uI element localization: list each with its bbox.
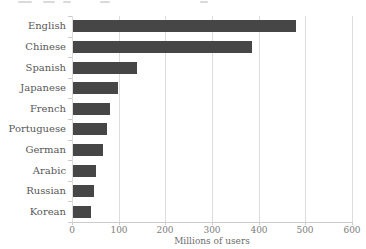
gridline [305, 16, 306, 222]
bar-french [73, 103, 110, 115]
cropped-title-fragment [63, 1, 71, 3]
bar-japanese [73, 82, 118, 94]
category-label-german: German [0, 144, 66, 156]
gridline [352, 16, 353, 222]
category-label-russian: Russian [0, 185, 66, 197]
cropped-title-fragment [18, 1, 32, 3]
category-label-arabic: Arabic [0, 165, 66, 177]
bar-arabic [73, 165, 96, 177]
x-tick-label: 500 [296, 225, 313, 235]
category-label-portuguese: Portuguese [0, 123, 66, 135]
x-axis-title: Millions of users [174, 236, 250, 246]
y-tick-mark [68, 78, 72, 79]
category-label-korean: Korean [0, 206, 66, 218]
bar-korean [73, 206, 91, 218]
y-tick-mark [68, 222, 72, 223]
bar-spanish [73, 62, 137, 74]
y-tick-mark [68, 201, 72, 202]
category-label-english: English [0, 20, 66, 32]
category-label-spanish: Spanish [0, 62, 66, 74]
bar-german [73, 144, 103, 156]
y-tick-mark [68, 160, 72, 161]
y-tick-mark [68, 16, 72, 17]
category-label-chinese: Chinese [0, 41, 66, 53]
bar-english [73, 20, 296, 32]
cropped-title-fragment [43, 1, 55, 3]
y-tick-mark [68, 37, 72, 38]
y-tick-mark [68, 181, 72, 182]
x-tick-label: 400 [250, 225, 267, 235]
bar-portuguese [73, 123, 107, 135]
gridline [259, 16, 260, 222]
bar-chinese [73, 41, 252, 53]
x-tick-label: 100 [110, 225, 127, 235]
y-tick-mark [68, 57, 72, 58]
category-label-japanese: Japanese [0, 82, 66, 94]
y-tick-mark [68, 119, 72, 120]
x-axis-line [72, 222, 352, 223]
bar-russian [73, 185, 94, 197]
x-tick-label: 600 [343, 225, 360, 235]
y-tick-mark [68, 98, 72, 99]
y-tick-mark [68, 140, 72, 141]
bar-chart-languages-by-users: 0100200300400500600EnglishChineseSpanish… [0, 0, 366, 249]
x-tick-label: 0 [69, 225, 75, 235]
x-tick-label: 200 [156, 225, 173, 235]
x-tick-label: 300 [203, 225, 220, 235]
category-label-french: French [0, 103, 66, 115]
cropped-title-fragment [200, 1, 208, 3]
cropped-title-fragment [100, 1, 110, 3]
